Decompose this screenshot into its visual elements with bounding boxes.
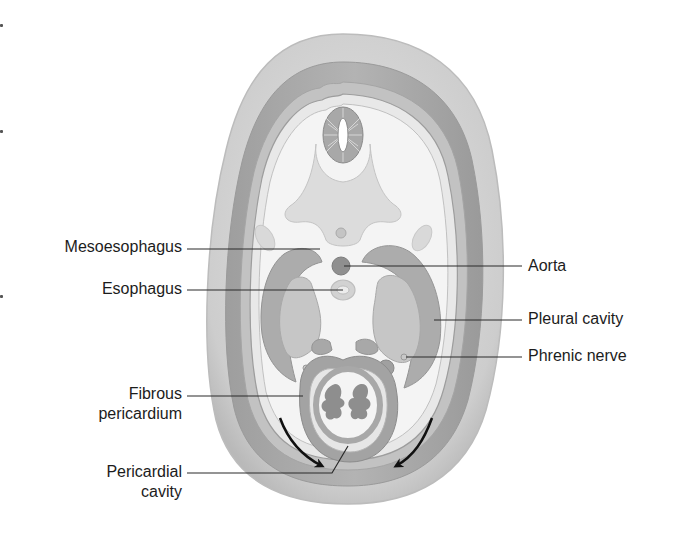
label-text: Aorta	[528, 257, 566, 274]
label-fibrous-pericardium: Fibrous pericardium	[32, 384, 182, 424]
label-text-line2: cavity	[32, 482, 182, 502]
label-text: Esophagus	[102, 280, 182, 297]
label-esophagus: Esophagus	[32, 279, 182, 299]
anatomy-figure: Mesoesophagus Esophagus Fibrous pericard…	[0, 0, 685, 534]
label-pleural-cavity: Pleural cavity	[528, 309, 623, 329]
label-text: Phrenic nerve	[528, 347, 627, 364]
label-text-line1: Fibrous	[32, 384, 182, 404]
label-phrenic-nerve: Phrenic nerve	[528, 346, 627, 366]
label-text: Pleural cavity	[528, 310, 623, 327]
label-aorta: Aorta	[528, 256, 566, 276]
cross-section-illustration	[0, 0, 685, 534]
label-text: Mesoesophagus	[65, 238, 182, 255]
label-text-line1: Pericardial	[32, 462, 182, 482]
pericardium	[300, 356, 398, 462]
label-text-line2: pericardium	[32, 404, 182, 424]
label-mesoesophagus: Mesoesophagus	[32, 237, 182, 257]
neural-tube	[323, 107, 363, 163]
label-pericardial-cavity: Pericardial cavity	[32, 462, 182, 502]
